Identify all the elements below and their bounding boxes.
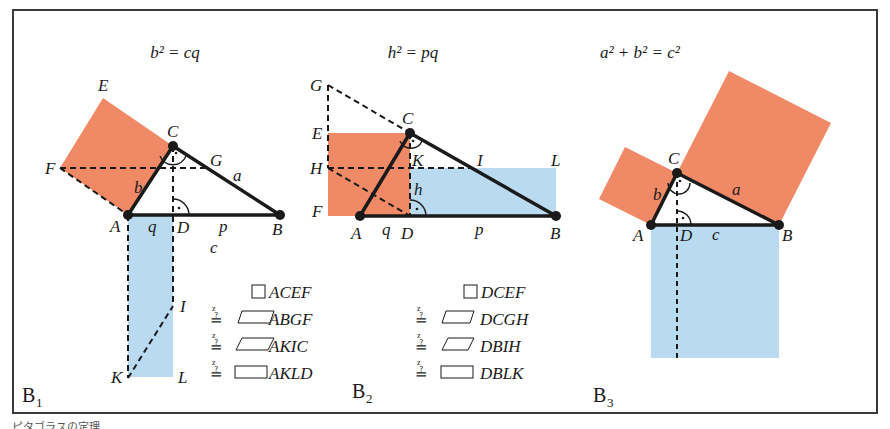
panel-tag-b2: B [352,380,365,402]
label-g: G [310,76,322,95]
label-c: C [402,109,414,128]
label-d: D [679,226,693,245]
label-k: K [411,151,425,170]
label-side-b: b [134,178,143,197]
square-on-a [677,71,831,225]
label-side-b: b [653,185,662,204]
vertex-a [123,210,133,220]
dashed-gc [328,85,410,133]
label-side-q: q [148,217,157,236]
label-side-c: c [712,225,720,244]
label-l: L [177,368,187,387]
label-side-p: p [218,217,228,236]
equal-sign-icon: ≟ [210,366,223,382]
panel-tag-b3: B [593,384,606,406]
rectangle-icon [441,366,473,378]
label-b: B [550,224,561,243]
svg-text:AKIC: AKIC [268,337,308,356]
label-g: G [210,151,222,170]
svg-text:ABGF: ABGF [268,310,313,329]
square-icon [252,285,265,298]
diagram-canvas: b² = cq E C [0,0,890,429]
label-k: K [110,368,124,387]
svg-text:DBLK: DBLK [479,364,525,383]
svg-text:DCGH: DCGH [479,310,530,329]
label-l: L [550,151,560,170]
rectangle-icon [235,366,267,378]
label-a: A [632,226,644,245]
label-side-c: c [210,238,218,257]
label-side-a: a [732,180,741,199]
panel-b2: h² = pq G C E H K I L [309,43,561,406]
formula-b2: h² = pq [388,43,439,62]
equal-sign-icon: ≟ [415,366,428,382]
svg-text:1: 1 [36,395,43,410]
label-f: F [311,202,323,221]
svg-text:ACEF: ACEF [268,283,312,302]
square-icon [464,285,477,298]
label-d: D [176,218,190,237]
label-a: A [350,224,362,243]
parallelogram-icon [442,338,474,350]
equal-sign-icon: ≟ [210,339,223,355]
panel-tag-b1: B [22,384,35,406]
label-side-q: q [382,220,391,239]
vertex-b [275,210,285,220]
svg-text:AKLD: AKLD [268,364,313,383]
vertex-a [646,220,656,230]
equal-sign-icon: ≟ [210,312,223,328]
square-on-c [651,225,779,358]
label-side-a: a [233,166,242,185]
label-b: B [782,226,793,245]
label-h: H [309,159,324,178]
label-side-h: h [414,180,423,199]
vertex-a [355,211,365,221]
vertex-b [551,211,561,221]
label-i: I [179,297,187,316]
equal-sign-icon: ≟ [415,312,428,328]
label-d: D [400,224,414,243]
vertex-c [168,141,178,151]
label-side-p: p [474,220,484,239]
equal-sign-icon: ≟ [415,339,428,355]
formula-b3: a² + b² = c² [600,43,681,62]
pythagoras-diagram: b² = cq E C [0,0,890,429]
parallelogram-icon [442,311,474,323]
label-e: E [97,76,109,95]
right-angle-d-icon [173,199,189,215]
formula-b1: b² = cq [150,43,200,62]
equality-list-b2: DCEF z ≟ DCGH z ≟ DBIH z ≟ DBLK [415,283,530,383]
label-i: I [476,151,484,170]
panel-b3: a² + b² = c² C b a A D c B B 3 [593,43,831,410]
square-on-b [599,147,677,225]
label-c: C [668,149,680,168]
panel-b1: b² = cq E C [22,43,313,410]
label-c: C [167,122,179,141]
label-f: F [44,159,56,178]
square-acef [60,98,173,215]
label-b: B [272,220,283,239]
svg-text:DBIH: DBIH [479,337,522,356]
label-e: E [311,124,323,143]
figure-caption: ピタゴラスの定理 [12,418,100,429]
label-a: A [109,217,121,236]
svg-text:DCEF: DCEF [480,283,526,302]
rectangle-akld [128,215,173,377]
svg-text:3: 3 [607,395,614,410]
svg-text:2: 2 [366,391,373,406]
vertex-c [405,128,415,138]
equality-list-b1: ACEF z ≟ ABGF z ≟ AKIC z ≟ AKLD [210,283,313,383]
vertex-c [672,168,682,178]
